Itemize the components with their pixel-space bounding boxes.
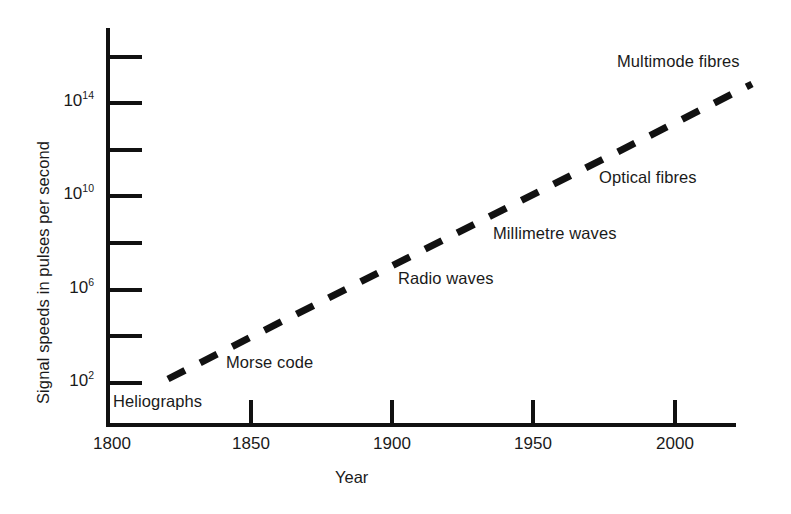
x-tick-label-1950: 1950 [514,434,552,454]
y-tick-exponent: 2 [88,369,94,381]
y-tick-exponent: 6 [88,276,94,288]
x-tick-label-1800: 1800 [93,434,131,454]
x-axis-title: Year [335,468,368,487]
y-axis-title: Signal speeds in pulses per second [30,74,56,404]
annotation-heliographs: Heliographs [113,392,202,411]
annotation-millimetre-waves: Millimetre waves [493,224,617,243]
y-tick-label-1e14: 1014 [32,91,94,111]
chart-figure: Signal speeds in pulses per second Year … [0,0,791,514]
y-axis-ticks [108,57,142,383]
x-tick-label-2000: 2000 [656,434,694,454]
trend-line [168,84,752,379]
annotation-optical-fibres: Optical fibres [599,168,697,187]
y-tick-exponent: 10 [82,182,94,194]
y-tick-base: 10 [69,278,88,297]
annotation-morse-code: Morse code [226,353,313,372]
y-tick-label-1e2: 102 [32,371,94,391]
y-tick-exponent: 14 [82,89,94,101]
y-tick-base: 10 [69,371,88,390]
annotation-multimode-fibres: Multimode fibres [617,52,740,71]
x-axis-ticks [251,400,675,425]
annotation-radio-waves: Radio waves [398,269,494,288]
y-tick-label-1e10: 1010 [32,184,94,204]
y-tick-base: 10 [63,184,82,203]
x-tick-label-1850: 1850 [232,434,270,454]
x-tick-label-1900: 1900 [373,434,411,454]
y-tick-base: 10 [63,91,82,110]
y-tick-label-1e6: 106 [32,278,94,298]
